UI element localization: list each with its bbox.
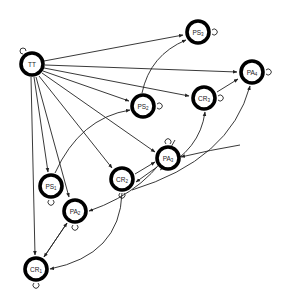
node-cr3: CR3 [193, 87, 223, 109]
node-pa3: PA3 [157, 139, 179, 169]
edge-tt-to-pa4 [45, 65, 237, 72]
node-pa2: PA2 [64, 200, 86, 230]
self-loop-icon [20, 48, 26, 54]
node-pa4: PA4 [241, 61, 271, 83]
edge-tt-to-cr1 [31, 77, 35, 255]
edge-pa3-to-cr2 [136, 167, 157, 182]
node-cr1: CR1 [25, 258, 47, 288]
edges-layer [31, 35, 250, 269]
self-loop-icon [212, 29, 217, 35]
self-loop-icon [72, 225, 78, 230]
edge-cr3-to-pa4 [217, 79, 238, 92]
self-loop-icon [218, 95, 223, 101]
node-label: TT [28, 61, 36, 68]
edge-tt-to-ps2 [43, 71, 129, 101]
self-loop-icon [266, 69, 271, 75]
edge-tt-to-ps3 [44, 35, 183, 61]
node-tt: TT [20, 48, 43, 75]
node-ps3: PS3 [187, 21, 217, 43]
node-ps1: PS1 [40, 175, 62, 205]
self-loop-icon [157, 103, 162, 109]
state-transition-diagram: TTPS3PA4CR3PS2PA3CR2PS1PA2CR1 [0, 0, 286, 304]
edge-tt-to-ps1 [34, 77, 48, 172]
edge-pa2-to-cr1 [44, 223, 67, 257]
self-loop-icon [165, 139, 171, 144]
edge-ps1-to-ps2 [55, 110, 130, 173]
edge-cr2-to-cr1 [50, 193, 122, 269]
edge-tt-to-cr3 [44, 68, 189, 96]
edge-tt-to-cr2 [39, 76, 112, 168]
self-loop-icon [33, 283, 39, 288]
self-loop-icon [48, 200, 54, 205]
node-ps2: PS2 [132, 95, 162, 117]
edge-ps2-to-ps3 [142, 40, 186, 93]
